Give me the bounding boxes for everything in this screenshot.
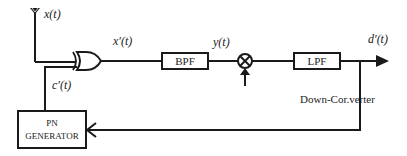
input-signal-label: x(t) bbox=[43, 7, 61, 21]
despread-signal-label: x′(t) bbox=[112, 34, 132, 48]
output-arrow-icon bbox=[376, 55, 389, 67]
bpf-label: BPF bbox=[175, 55, 195, 67]
filtered-signal-label: y(t) bbox=[212, 35, 230, 49]
pn-generator-label-line2: GENERATOR bbox=[25, 131, 78, 141]
down-converter-label: Down-Cor.verter bbox=[300, 93, 375, 105]
pn-generator-label-line1: PN bbox=[46, 118, 58, 128]
mixer-icon bbox=[238, 54, 252, 68]
pn-code-label: c′(t) bbox=[52, 78, 71, 92]
xor-gate bbox=[73, 52, 101, 70]
antenna-icon bbox=[30, 8, 40, 62]
pn-generator-block bbox=[18, 111, 86, 148]
output-signal-label: d′(t) bbox=[368, 32, 388, 46]
lo-arrow-icon bbox=[240, 68, 250, 75]
receiver-block-diagram: x(t) c′(t) x′(t) BPF y(t) LPF Down-Cor.v… bbox=[0, 0, 407, 156]
lpf-label: LPF bbox=[308, 55, 327, 67]
